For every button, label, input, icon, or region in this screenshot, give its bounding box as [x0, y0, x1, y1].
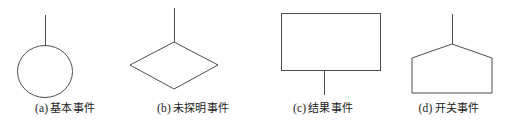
caption-tag: (c)	[293, 102, 306, 114]
symbol-panel-switch-event: (d)开关事件	[388, 0, 510, 133]
caption-result-event: (c)结果事件	[258, 100, 388, 117]
rectangle-outline	[281, 13, 380, 70]
symbol-panel-undeveloped-event: (b)未探明事件	[128, 0, 258, 133]
undeveloped-event-shape-area	[128, 0, 258, 100]
basic-event-shape-area	[0, 0, 130, 100]
caption-tag: (a)	[35, 102, 48, 114]
caption-label: 未探明事件	[173, 102, 229, 115]
caption-label: 基本事件	[50, 102, 95, 115]
fta-symbol-figure: (a)基本事件 (b)未探明事件 (c)结果事件	[0, 0, 510, 133]
symbol-panel-basic-event: (a)基本事件	[0, 0, 130, 133]
diamond-outline	[130, 42, 218, 89]
caption-label: 开关事件	[435, 102, 480, 115]
pentagon-switch-event-icon	[388, 0, 510, 100]
caption-undeveloped-event: (b)未探明事件	[128, 100, 258, 117]
caption-tag: (b)	[157, 102, 171, 114]
symbol-panel-result-event: (c)结果事件	[258, 0, 388, 133]
result-event-shape-area	[258, 0, 388, 100]
switch-event-shape-area	[388, 0, 510, 100]
circle-outline	[18, 46, 73, 98]
diamond-undeveloped-event-icon	[128, 0, 258, 100]
caption-switch-event: (d)开关事件	[388, 100, 510, 117]
pentagon-outline	[412, 44, 492, 93]
caption-basic-event: (a)基本事件	[0, 100, 130, 117]
rectangle-result-event-icon	[258, 0, 388, 100]
circle-basic-event-icon	[0, 0, 130, 100]
caption-tag: (d)	[419, 102, 433, 114]
caption-label: 结果事件	[308, 102, 353, 115]
